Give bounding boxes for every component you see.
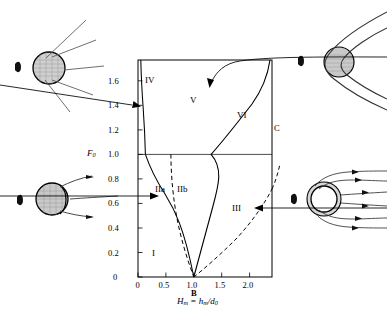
x-axis-label-div: /d — [208, 296, 215, 306]
y-axis-label-subscript: 0 — [93, 151, 96, 158]
region-label-iii: III — [232, 204, 241, 213]
region-label-iia: IIa — [155, 185, 165, 194]
y-tick-0-2: 0.2 — [108, 249, 119, 258]
figure-text-layer: 0 0.2 0.4 0.6 0.8 1.0 1.2 1.4 1.6 F0 0 0… — [0, 0, 387, 315]
marker-label-c: C — [274, 124, 280, 133]
x-tick-2-0: 2.0 — [243, 281, 254, 290]
x-tick-0-5: 0.5 — [159, 281, 170, 290]
y-tick-0-6: 0.6 — [108, 199, 119, 208]
x-tick-0: 0 — [136, 281, 140, 290]
y-axis-label: F0 — [87, 149, 96, 159]
region-label-iv: IV — [145, 76, 155, 85]
y-tick-1-4: 1.4 — [108, 101, 119, 110]
x-axis-label: Hm = hm/d0 — [177, 297, 218, 307]
region-label-iib: IIb — [177, 185, 188, 194]
x-tick-1-5: 1.5 — [215, 281, 226, 290]
y-tick-0: 0 — [113, 273, 117, 282]
y-tick-0-8: 0.8 — [108, 175, 119, 184]
x-axis-label-sub3: 0 — [215, 299, 218, 306]
phase-diagram-figure: 0 0.2 0.4 0.6 0.8 1.0 1.2 1.4 1.6 F0 0 0… — [0, 0, 387, 315]
region-label-vi: VI — [237, 111, 247, 120]
y-tick-1-0: 1.0 — [108, 150, 119, 159]
y-tick-1-2: 1.2 — [108, 126, 119, 135]
y-tick-0-4: 0.4 — [108, 224, 119, 233]
x-axis-label-eq: = h — [188, 296, 203, 306]
region-label-i: I — [152, 249, 155, 258]
y-tick-1-6: 1.6 — [108, 77, 119, 86]
region-label-v: V — [190, 96, 197, 105]
